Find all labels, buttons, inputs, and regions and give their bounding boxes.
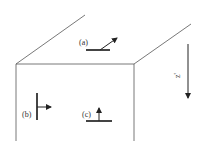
symbol-a: (a) — [79, 38, 117, 50]
box-diagram: (a) (b) (c) z' — [0, 0, 204, 150]
z-prime-axis: z' — [173, 44, 188, 98]
box-outline — [16, 15, 191, 141]
z-axis-label: z' — [173, 72, 182, 78]
label-b: (b) — [22, 110, 32, 119]
symbol-c: (c) — [82, 108, 112, 121]
symbol-a-arrow-icon — [100, 38, 117, 50]
top-right-diagonal-edge — [134, 24, 191, 64]
label-a: (a) — [79, 38, 88, 47]
top-left-diagonal-edge — [16, 15, 85, 64]
label-c: (c) — [82, 110, 91, 119]
symbol-b: (b) — [22, 93, 51, 120]
